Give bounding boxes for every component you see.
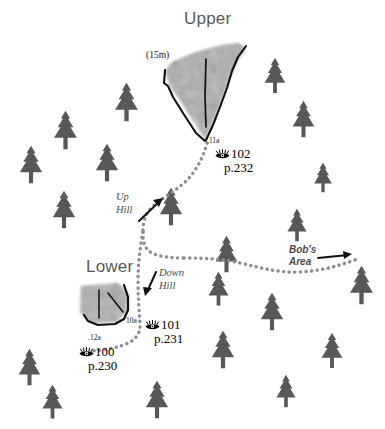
tree-icon <box>115 83 138 122</box>
trail-bobs-area-segment <box>184 258 360 272</box>
tree-icon <box>293 101 315 137</box>
tree-icon <box>19 349 41 385</box>
tree-icon <box>212 331 234 369</box>
tree-icon <box>322 333 343 368</box>
tree-icon <box>287 209 306 241</box>
trail-junction-segment <box>143 232 184 258</box>
upper-crag-graphic <box>164 43 246 141</box>
tree-icon <box>54 111 77 150</box>
tree-icon <box>265 58 286 93</box>
tree-icon <box>209 272 229 306</box>
up-hill-arrow-icon <box>139 198 163 221</box>
approach-map: .trail { fill:none; stroke:#8e8e90; stro… <box>0 0 385 429</box>
tree-icon <box>314 163 332 193</box>
tree-icon <box>96 144 118 182</box>
trail-upper-segment <box>143 143 207 232</box>
map-graphics-layer: .trail { fill:none; stroke:#8e8e90; stro… <box>0 0 385 429</box>
tree-icon <box>276 375 295 407</box>
tree-icon <box>261 293 283 331</box>
tree-icon <box>350 266 373 305</box>
tree-icon <box>216 236 238 272</box>
lower-crag-graphic <box>80 283 128 325</box>
tree-icon <box>20 146 42 184</box>
tree-icon <box>53 191 75 229</box>
tree-icon <box>43 385 63 419</box>
tree-icon <box>146 381 168 419</box>
bobs-area-arrow-icon <box>318 251 352 259</box>
upper-crag-route-line <box>205 59 206 127</box>
down-hill-arrow-icon <box>143 272 156 296</box>
